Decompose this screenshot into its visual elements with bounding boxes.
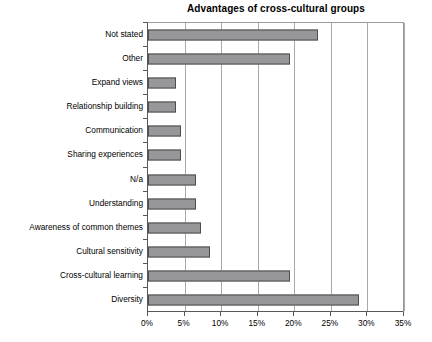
category-label: Diversity [111,287,143,311]
bar[interactable] [148,222,201,233]
bar-slot [148,119,403,143]
value-tick-label: 0% [141,318,153,328]
category-label: Awareness of common themes [29,215,143,239]
bar-slot [148,47,403,71]
category-label: Cultural sensitivity [76,239,143,263]
value-tick-label: 5% [178,318,190,328]
bar-slot [148,71,403,95]
value-tick-label: 20% [285,318,302,328]
bar[interactable] [148,174,196,185]
bar-slot [148,216,403,240]
bar[interactable] [148,54,290,65]
value-axis: 0%5%10%15%20%25%30%35% [147,312,405,338]
value-tick [403,312,404,316]
bar[interactable] [148,102,176,113]
bars-layer [148,23,403,311]
category-label: Other [122,46,143,70]
bar-slot [148,95,403,119]
bar-chart: Advantages of cross-cultural groups Not … [0,0,432,342]
value-tick-label: 10% [212,318,229,328]
bar[interactable] [148,150,181,161]
bar[interactable] [148,30,318,41]
value-tick-label: 30% [358,318,375,328]
chart-title: Advantages of cross-cultural groups [147,3,405,14]
bar[interactable] [148,246,210,257]
bar[interactable] [148,78,176,89]
gridline [404,23,405,311]
category-label: Sharing experiences [67,142,143,166]
value-tick [257,312,258,316]
value-tick-label: 35% [395,318,412,328]
bar-slot [148,143,403,167]
value-tick [330,312,331,316]
bar[interactable] [148,270,290,281]
bar-slot [148,23,403,47]
bar-slot [148,264,403,288]
value-tick [293,312,294,316]
bar[interactable] [148,294,359,305]
value-tick [220,312,221,316]
bar-slot [148,168,403,192]
bar-slot [148,192,403,216]
bar-slot [148,240,403,264]
category-label: Cross-cultural learning [60,263,143,287]
bar[interactable] [148,126,181,137]
value-tick [184,312,185,316]
category-label: Expand views [92,70,143,94]
category-label: N/a [130,167,143,191]
bar-slot [148,288,403,312]
value-tick [147,312,148,316]
category-label: Not stated [105,22,143,46]
bar[interactable] [148,198,196,209]
plot-area [147,22,404,312]
value-tick-label: 25% [322,318,339,328]
value-tick [366,312,367,316]
category-label: Communication [85,118,143,142]
category-axis: Not statedOtherExpand viewsRelationship … [0,22,143,312]
category-label: Relationship building [66,94,143,118]
value-tick-label: 15% [248,318,265,328]
category-label: Understanding [89,191,143,215]
